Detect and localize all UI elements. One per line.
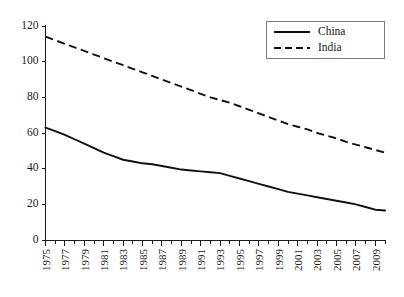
- y-axis-tick-labels: 020406080100120: [21, 19, 39, 245]
- y-tick-label: 120: [21, 19, 39, 31]
- x-tick-label: 1995: [234, 249, 246, 272]
- x-tick-label: 1987: [156, 249, 168, 272]
- y-tick-label: 0: [33, 233, 39, 245]
- x-axis-group: 1975197719791981198319851987198919911993…: [40, 240, 385, 271]
- x-tick-label: 1983: [117, 249, 129, 272]
- y-axis-group: 020406080100120: [21, 19, 45, 245]
- chart-legend: ChinaIndia: [266, 21, 384, 58]
- x-tick-label: 2005: [331, 249, 343, 272]
- x-axis-ticks: [46, 240, 386, 246]
- x-tick-label: 1993: [214, 249, 226, 272]
- x-tick-label: 2007: [350, 249, 362, 272]
- chart-canvas: 020406080100120 197519771979198119831985…: [0, 0, 404, 297]
- legend-label-china: China: [318, 25, 345, 37]
- legend-label-india: India: [318, 41, 342, 53]
- x-tick-label: 1991: [195, 249, 207, 271]
- x-tick-label: 1989: [176, 249, 188, 272]
- x-tick-label: 1997: [253, 249, 265, 272]
- x-tick-label: 2001: [292, 249, 304, 271]
- x-axis-tick-labels: 1975197719791981198319851987198919911993…: [40, 249, 382, 272]
- x-tick-label: 1981: [98, 249, 110, 271]
- series-line-china: [46, 128, 386, 211]
- x-tick-label: 1999: [273, 249, 285, 272]
- y-tick-label: 100: [21, 54, 39, 66]
- y-tick-label: 60: [27, 126, 39, 138]
- x-tick-label: 2009: [370, 249, 382, 272]
- x-tick-label: 1979: [79, 249, 91, 272]
- y-tick-label: 40: [27, 161, 39, 173]
- line-chart-figure: 020406080100120 197519771979198119831985…: [0, 0, 404, 297]
- data-series-group: [46, 37, 386, 211]
- x-tick-label: 1977: [59, 249, 71, 272]
- x-tick-label: 1975: [40, 249, 52, 272]
- y-tick-label: 80: [27, 90, 39, 102]
- x-tick-label: 2003: [311, 249, 323, 272]
- y-axis-ticks: [42, 26, 46, 240]
- y-tick-label: 20: [27, 197, 39, 209]
- x-tick-label: 1985: [137, 249, 149, 272]
